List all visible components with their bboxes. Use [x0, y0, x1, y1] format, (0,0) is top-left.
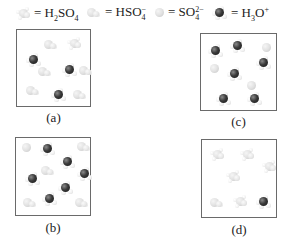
- so4-ion-icon: [262, 43, 272, 53]
- hso4-ion-icon: [73, 90, 88, 101]
- h3o-ion-icon: [40, 142, 56, 156]
- panel-a: [16, 29, 91, 107]
- hso4-ion-icon: [26, 86, 41, 97]
- panel-label-a: (a): [34, 110, 74, 126]
- h3o-ion-icon: [26, 53, 42, 67]
- panel-b: [15, 137, 91, 216]
- legend-item-hso4: = HSO−4: [87, 4, 146, 22]
- panel-d: [201, 139, 277, 218]
- hso4-ion-icon: [210, 198, 225, 209]
- h2so4-molecule-icon: [16, 7, 31, 20]
- h2so4-molecule-icon: [233, 195, 248, 208]
- h3o-ion-icon: [247, 92, 263, 106]
- panel-label-c: (c): [219, 114, 259, 130]
- h2so4-molecule-icon: [226, 170, 241, 183]
- so4-ion-icon: [247, 81, 257, 91]
- legend-label-h2so4: = H2SO4: [34, 5, 79, 21]
- h3o-ion-icon: [230, 39, 246, 53]
- legend-label-hso4: = HSO−4: [105, 4, 146, 21]
- legend-label-so4: = SO2−4: [168, 4, 204, 21]
- h3o-ion-icon: [227, 67, 243, 81]
- hso4-ion-icon: [41, 166, 56, 177]
- legend-item-h3o: = H3O+: [212, 4, 269, 22]
- h3o-ion-icon: [51, 88, 67, 102]
- panel-c: [200, 33, 277, 111]
- hso4-ion-icon: [87, 8, 102, 19]
- h3o-ion-icon: [25, 172, 41, 186]
- legend-item-so4: = SO2−4: [155, 4, 204, 22]
- h3o-ion-icon: [77, 167, 93, 181]
- hso4-ion-icon: [79, 66, 94, 77]
- h2so4-molecule-icon: [262, 160, 277, 173]
- panel-label-d: (d): [219, 222, 259, 238]
- legend-label-h3o: = H3O+: [231, 5, 269, 21]
- h3o-ion-icon: [212, 6, 228, 20]
- h3o-ion-icon: [60, 155, 76, 169]
- h3o-ion-icon: [256, 195, 272, 209]
- hso4-ion-icon: [38, 67, 53, 78]
- h2so4-molecule-icon: [240, 148, 255, 161]
- h2so4-molecule-icon: [67, 37, 82, 50]
- so4-ion-icon: [22, 143, 32, 153]
- hso4-ion-icon: [23, 198, 38, 209]
- so4-ion-icon: [210, 64, 220, 74]
- legend: = H2SO4= HSO−4= SO2−4= H3O+: [0, 0, 295, 24]
- so4-ion-icon: [155, 8, 165, 18]
- h3o-ion-icon: [256, 56, 272, 70]
- h2so4-molecule-icon: [210, 148, 225, 161]
- panel-label-b: (b): [33, 220, 73, 236]
- hso4-ion-icon: [44, 40, 59, 51]
- hso4-ion-icon: [77, 142, 92, 153]
- h3o-ion-icon: [58, 181, 74, 195]
- legend-item-h2so4: = H2SO4: [16, 4, 79, 22]
- hso4-ion-icon: [75, 198, 90, 209]
- h3o-ion-icon: [62, 63, 78, 77]
- h3o-ion-icon: [216, 92, 232, 106]
- h3o-ion-icon: [208, 44, 224, 58]
- h3o-ion-icon: [42, 192, 58, 206]
